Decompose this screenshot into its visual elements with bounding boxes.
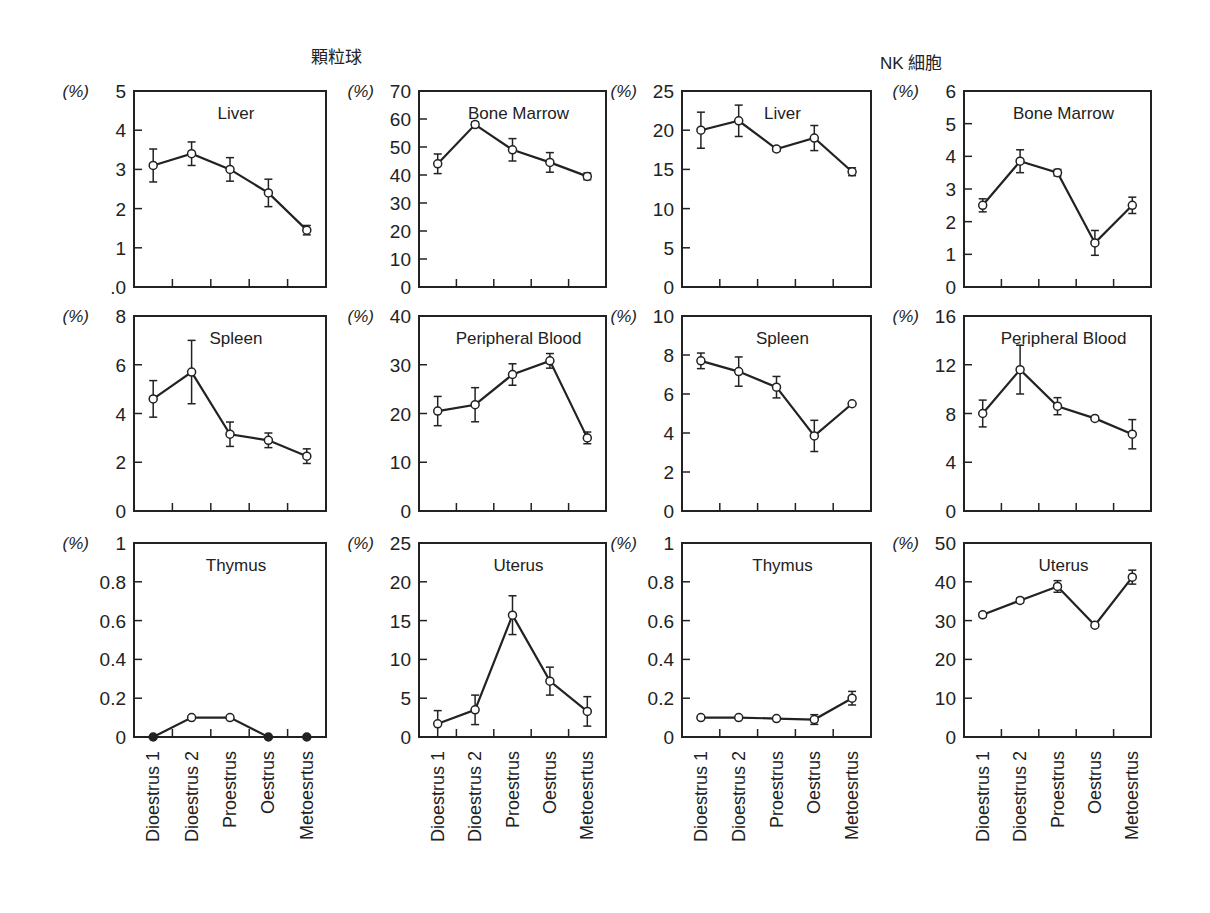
marker-open <box>583 434 591 442</box>
panel-title: Bone Marrow <box>468 104 570 123</box>
marker-open <box>1128 573 1136 581</box>
marker-filled <box>264 733 272 741</box>
marker-filled <box>149 733 157 741</box>
panel-thymus: Thymus(%)00.20.40.60.81Dioestrus 1Dioest… <box>611 533 871 842</box>
marker-open <box>697 714 705 722</box>
panel-bone-marrow: Bone Marrow(%)010203040506070 <box>348 81 606 298</box>
marker-open <box>149 395 157 403</box>
y-tick-label: .0 <box>110 277 126 298</box>
marker-open <box>471 401 479 409</box>
y-tick-label: 50 <box>390 137 411 158</box>
marker-open <box>1128 430 1136 438</box>
y-tick-label: 2 <box>115 452 126 473</box>
x-category-label: Metoesrtus <box>297 751 317 840</box>
y-tick-label: 4 <box>945 146 956 167</box>
marker-open <box>546 677 554 685</box>
panel-uterus: Uterus(%)0510152025Dioestrus 1Dioestrus … <box>348 533 606 842</box>
y-tick-label: 12 <box>935 355 956 376</box>
panel-title: Bone Marrow <box>1013 104 1115 123</box>
x-category-label: Dioestrus 1 <box>973 751 993 842</box>
marker-open <box>226 165 234 173</box>
x-category-label: Proestrus <box>220 751 240 828</box>
x-category-label: Oestrus <box>258 751 278 814</box>
marker-open <box>773 383 781 391</box>
y-tick-label: 0.4 <box>100 649 127 670</box>
marker-open <box>226 430 234 438</box>
y-tick-label: 5 <box>400 688 411 709</box>
x-category-label: Proestrus <box>503 751 523 828</box>
marker-open <box>1016 596 1024 604</box>
y-tick-label: 0 <box>945 277 956 298</box>
y-tick-label: 6 <box>663 384 674 405</box>
y-tick-label: 2 <box>663 462 674 483</box>
panel-title: Liver <box>764 104 801 123</box>
y-unit-label: (%) <box>63 307 89 326</box>
y-tick-label: 10 <box>653 199 674 220</box>
y-tick-label: 40 <box>935 572 956 593</box>
marker-open <box>264 189 272 197</box>
x-category-label: Dioestrus 2 <box>729 751 749 842</box>
y-tick-label: 30 <box>390 193 411 214</box>
marker-open <box>303 452 311 460</box>
panel-title: Peripheral Blood <box>456 329 582 348</box>
y-unit-label: (%) <box>348 82 374 101</box>
panel-spleen: Spleen(%)02468 <box>63 306 326 522</box>
marker-open <box>697 126 705 134</box>
y-tick-label: 20 <box>390 221 411 242</box>
panel-title: Thymus <box>752 556 812 575</box>
y-tick-label: 0.8 <box>648 572 674 593</box>
x-category-label: Dioestrus 2 <box>182 751 202 842</box>
marker-open <box>773 145 781 153</box>
y-unit-label: (%) <box>893 82 919 101</box>
y-tick-label: 6 <box>115 355 126 376</box>
y-tick-label: 10 <box>653 306 674 327</box>
marker-open <box>773 715 781 723</box>
y-tick-label: 8 <box>663 345 674 366</box>
y-tick-label: 15 <box>390 611 411 632</box>
y-unit-label: (%) <box>611 534 637 553</box>
marker-open <box>226 714 234 722</box>
y-unit-label: (%) <box>893 534 919 553</box>
marker-open <box>188 368 196 376</box>
marker-open <box>434 160 442 168</box>
x-category-label: Dioestrus 2 <box>465 751 485 842</box>
marker-open <box>509 146 517 154</box>
marker-open <box>303 226 311 234</box>
panel-peripheral-blood: Peripheral Blood(%)010203040 <box>348 306 606 522</box>
marker-open <box>188 150 196 158</box>
marker-open <box>471 121 479 129</box>
panel-liver: Liver(%).012345 <box>63 81 326 298</box>
marker-open <box>1054 169 1062 177</box>
y-tick-label: 15 <box>653 159 674 180</box>
y-tick-label: 8 <box>945 404 956 425</box>
y-tick-label: 0 <box>945 501 956 522</box>
y-tick-label: 0.4 <box>648 649 675 670</box>
y-tick-label: 0 <box>400 727 411 748</box>
panel-title: Liver <box>218 104 255 123</box>
y-tick-label: 50 <box>935 533 956 554</box>
y-tick-label: 1 <box>945 244 956 265</box>
panel-title: Thymus <box>206 556 266 575</box>
marker-open <box>471 706 479 714</box>
x-category-label: Proestrus <box>1048 751 1068 828</box>
marker-open <box>1091 621 1099 629</box>
y-unit-label: (%) <box>63 534 89 553</box>
y-tick-label: 0 <box>663 727 674 748</box>
y-unit-label: (%) <box>611 307 637 326</box>
y-tick-label: 2 <box>115 199 126 220</box>
y-unit-label: (%) <box>893 307 919 326</box>
y-tick-label: 0 <box>115 727 126 748</box>
panel-title: Spleen <box>756 329 809 348</box>
x-category-label: Dioestrus 2 <box>1010 751 1030 842</box>
marker-open <box>1016 157 1024 165</box>
marker-open <box>735 368 743 376</box>
marker-open <box>149 161 157 169</box>
y-tick-label: 1 <box>115 533 126 554</box>
marker-open <box>546 357 554 365</box>
marker-open <box>509 371 517 379</box>
x-category-label: Metoesrtus <box>1122 751 1142 840</box>
marker-open <box>979 410 987 418</box>
marker-open <box>848 400 856 408</box>
marker-open <box>509 611 517 619</box>
x-category-label: Metoesrtus <box>577 751 597 840</box>
